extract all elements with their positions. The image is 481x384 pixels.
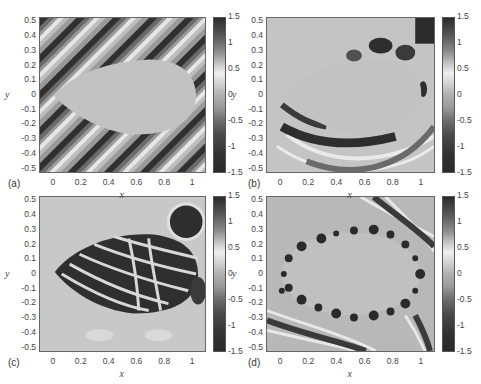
panel-d	[0, 0, 481, 384]
y-tick-label: -0.2	[14, 298, 36, 307]
x-tick-label: 1	[182, 178, 202, 187]
x-tick-label: 0.8	[154, 178, 174, 187]
x-axis-label: x	[348, 189, 352, 200]
x-axis-label: x	[120, 189, 124, 200]
colorbar-tick-label: -0.5	[457, 295, 472, 304]
y-tick-label: -0.5	[241, 343, 263, 352]
y-tick-label: -0.4	[241, 149, 263, 158]
x-tick-label: 1	[411, 357, 431, 366]
colorbar-tick-label: -1	[228, 142, 236, 151]
x-tick-label: 1	[411, 178, 431, 187]
x-tick-label: 1	[182, 357, 202, 366]
x-tick-label: 0.8	[383, 178, 403, 187]
panel-label: (c)	[8, 357, 20, 368]
colorbar-tick-label: 1.5	[457, 191, 469, 200]
y-tick-label: 0.3	[241, 225, 263, 234]
colorbar-tick-label: -1	[457, 142, 465, 151]
y-tick-label: -0.3	[241, 313, 263, 322]
y-tick-label: 0	[14, 90, 36, 99]
y-tick-label: 0.2	[241, 61, 263, 70]
x-tick-label: 0.2	[71, 357, 91, 366]
colorbar-tick-label: 1	[228, 38, 233, 47]
y-tick-label: -0.2	[241, 119, 263, 128]
y-tick-label: -0.1	[14, 105, 36, 114]
x-tick-label: 0.6	[126, 357, 146, 366]
x-tick-label: 0.4	[99, 178, 119, 187]
y-tick-label: -0.3	[14, 134, 36, 143]
y-tick-label: -0.2	[14, 119, 36, 128]
colorbar-tick-label: 0.5	[457, 64, 469, 73]
x-tick-label: 0.8	[383, 357, 403, 366]
x-tick-label: 0	[270, 178, 290, 187]
y-tick-label: -0.5	[14, 164, 36, 173]
colorbar-tick-label: -1.5	[457, 168, 472, 177]
colorbar-tick-label: 1	[457, 38, 462, 47]
colorbar-tick-label: -1	[457, 321, 465, 330]
y-tick-label: 0.1	[241, 75, 263, 84]
x-tick-label: 0.2	[298, 178, 318, 187]
panel-label: (a)	[8, 178, 20, 189]
colorbar-tick-label: 1.5	[228, 12, 240, 21]
y-tick-label: 0.3	[241, 46, 263, 55]
x-tick-label: 0.6	[126, 178, 146, 187]
y-tick-label: 0.2	[14, 61, 36, 70]
colorbar-tick-label: 0	[457, 269, 462, 278]
y-tick-label: -0.3	[14, 313, 36, 322]
y-tick-label: -0.4	[14, 328, 36, 337]
y-tick-label: 0	[241, 269, 263, 278]
x-tick-label: 0.8	[154, 357, 174, 366]
x-axis-label: x	[348, 368, 352, 379]
panel-label: (d)	[248, 357, 260, 368]
y-tick-label: 0.5	[14, 195, 36, 204]
x-tick-label: 0.6	[355, 178, 375, 187]
colorbar-tick-label: -0.5	[457, 116, 472, 125]
x-tick-label: 0.2	[298, 357, 318, 366]
y-tick-label: 0.4	[241, 31, 263, 40]
x-tick-label: 0	[43, 178, 63, 187]
y-tick-label: 0.1	[14, 75, 36, 84]
colorbar-tick-label: 0.5	[457, 243, 469, 252]
y-axis-label: y	[232, 89, 236, 100]
colorbar-tick-label: 1.5	[457, 12, 469, 21]
colorbar-tick-label: 0	[457, 90, 462, 99]
colorbar-tick-label: -1.5	[457, 347, 472, 356]
x-axis-label: x	[120, 368, 124, 379]
y-tick-label: -0.2	[241, 298, 263, 307]
y-tick-label: -0.5	[241, 164, 263, 173]
colorbar-tick-label: 0.5	[228, 64, 240, 73]
x-tick-label: 0.4	[99, 357, 119, 366]
y-tick-label: 0.3	[14, 225, 36, 234]
y-tick-label: 0.4	[14, 31, 36, 40]
y-tick-label: 0.5	[241, 195, 263, 204]
y-axis-label: y	[5, 89, 9, 100]
colorbar-tick-label: 1	[228, 217, 233, 226]
y-tick-label: 0.2	[14, 240, 36, 249]
x-tick-label: 0	[43, 357, 63, 366]
y-tick-label: 0.4	[241, 210, 263, 219]
x-tick-label: 0.2	[71, 178, 91, 187]
x-tick-label: 0.6	[355, 357, 375, 366]
colorbar-tick-label: -1	[228, 321, 236, 330]
colorbar-tick-label: 1.5	[228, 191, 240, 200]
y-tick-label: 0	[14, 269, 36, 278]
x-tick-label: 0	[270, 357, 290, 366]
x-tick-label: 0.4	[326, 178, 346, 187]
y-tick-label: 0.3	[14, 46, 36, 55]
x-tick-label: 0.4	[326, 357, 346, 366]
y-tick-label: -0.4	[14, 149, 36, 158]
y-axis-label: y	[5, 268, 9, 279]
colorbar-tick-label: 0.5	[228, 243, 240, 252]
y-tick-label: 0.2	[241, 240, 263, 249]
y-tick-label: -0.1	[241, 284, 263, 293]
heatmap-d	[266, 196, 435, 352]
y-tick-label: -0.1	[14, 284, 36, 293]
y-tick-label: 0.1	[14, 254, 36, 263]
colorbar-d	[442, 196, 455, 352]
y-axis-label: y	[232, 268, 236, 279]
y-tick-label: 0.1	[241, 254, 263, 263]
colorbar-tick-label: 1	[457, 217, 462, 226]
y-tick-label: -0.5	[14, 343, 36, 352]
y-tick-label: 0.5	[241, 16, 263, 25]
panel-label: (b)	[248, 178, 260, 189]
y-tick-label: -0.4	[241, 328, 263, 337]
